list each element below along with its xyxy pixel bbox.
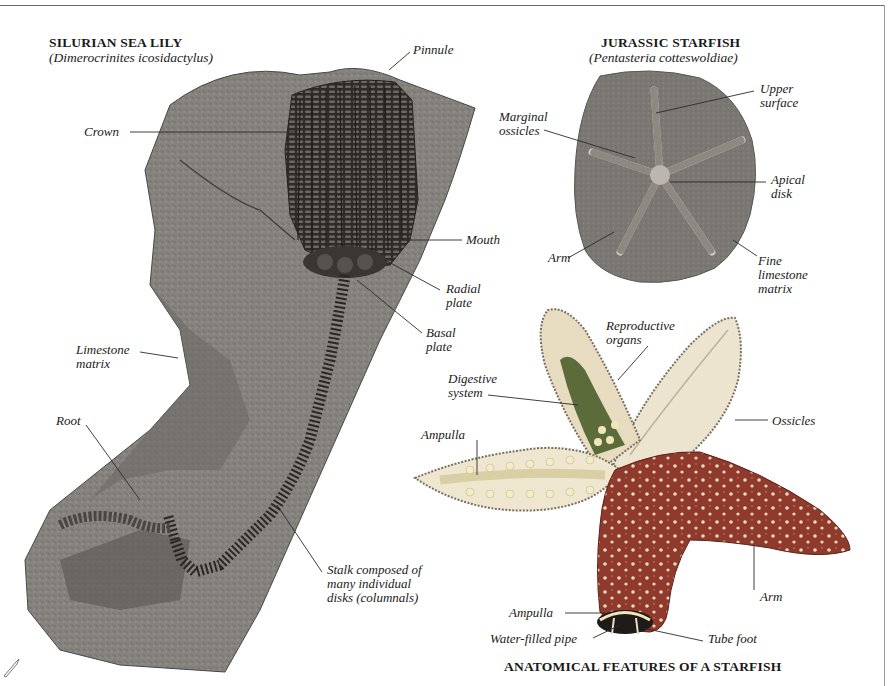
label-reproductive-organs: Reproductive organs	[606, 319, 675, 347]
label-fossil-arm: Arm	[548, 251, 570, 265]
label-upper-surface: Upper surface	[760, 82, 798, 110]
anatomy-title: ANATOMICAL FEATURES OF A STARFISH	[504, 659, 781, 675]
label-limestone-matrix: Limestone matrix	[76, 343, 129, 371]
jurassic-starfish-species: (Pentasteria cotteswoldiae)	[589, 50, 738, 66]
label-ampulla-lower: Ampulla	[509, 606, 553, 620]
anatomical-starfish	[415, 309, 850, 634]
label-anatomy-arm: Arm	[760, 590, 782, 604]
label-basal-plate: Basal plate	[426, 326, 456, 354]
sea-lily-species: (Dimerocrinites icosidactylus)	[49, 50, 213, 66]
label-ampulla-upper: Ampulla	[421, 428, 465, 442]
sea-lily-title: SILURIAN SEA LILY	[49, 35, 182, 51]
label-pinnule: Pinnule	[413, 43, 453, 57]
label-stalk: Stalk composed of many individual disks …	[327, 563, 422, 605]
label-radial-plate: Radial plate	[446, 282, 481, 310]
label-apical-disk: Apical disk	[771, 173, 805, 201]
jurassic-starfish-title: JURASSIC STARFISH	[601, 35, 740, 51]
label-marginal-ossicles: Marginal ossicles	[499, 110, 548, 138]
label-mouth: Mouth	[466, 233, 500, 247]
jurassic-starfish-fossil	[574, 71, 755, 282]
label-root: Root	[56, 414, 81, 428]
label-digestive-system: Digestive system	[448, 372, 497, 400]
label-fine-limestone-matrix: Fine limestone matrix	[758, 254, 808, 296]
label-crown: Crown	[84, 125, 119, 139]
pencil-icon	[2, 656, 20, 678]
label-tube-foot: Tube foot	[708, 632, 757, 646]
label-ossicles: Ossicles	[772, 414, 815, 428]
label-water-filled-pipe: Water-filled pipe	[490, 632, 577, 646]
encyclopedia-page: SILURIAN SEA LILY (Dimerocrinites icosid…	[0, 0, 888, 686]
